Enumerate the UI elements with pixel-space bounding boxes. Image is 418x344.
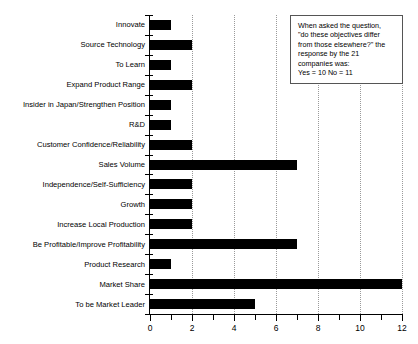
note-line: When asked the question, <box>298 21 396 30</box>
category-label: Be Profitable/Improve Profitability <box>33 240 145 249</box>
bar <box>150 100 171 110</box>
category-label: Expand Product Range <box>66 80 145 89</box>
category-label: Customer Confidence/Reliability <box>37 140 145 149</box>
category-label: R&D <box>129 120 145 129</box>
category-label: Increase Local Production <box>57 220 145 229</box>
category-label: Independence/Self-Sufficiency <box>43 180 145 189</box>
note-line: "do these objectives differ <box>298 30 396 39</box>
y-axis-tick <box>145 155 153 156</box>
x-axis-tick-label: 8 <box>305 323 331 333</box>
y-axis-tick <box>145 95 153 96</box>
y-axis-tick <box>145 234 153 235</box>
y-axis-tick <box>145 214 153 215</box>
x-axis-tick-minor <box>255 315 256 320</box>
note-line: from those elsewhere?" the <box>298 40 396 49</box>
category-label: Product Research <box>84 260 145 269</box>
x-axis-tick-label: 0 <box>137 323 163 333</box>
category-label: To be Market Leader <box>75 300 145 309</box>
y-axis-tick <box>145 35 153 36</box>
x-axis-tick-minor <box>213 315 214 320</box>
bar <box>150 140 192 150</box>
category-label: To Learn <box>115 60 145 69</box>
x-axis-tick-label: 4 <box>221 323 247 333</box>
bar <box>150 199 192 209</box>
y-axis-tick <box>145 274 153 275</box>
note-line: companies was: <box>298 59 396 68</box>
bar <box>150 259 171 269</box>
question-response-note: When asked the question, "do these objec… <box>290 15 403 84</box>
x-axis-tick-minor <box>381 315 382 320</box>
bar <box>150 179 192 189</box>
x-axis-tick-major <box>150 315 151 321</box>
category-label: Market Share <box>99 280 145 289</box>
bar-chart: InnovateSource TechnologyTo LearnExpand … <box>0 0 418 344</box>
x-axis-tick-major <box>360 315 361 321</box>
bar <box>150 299 255 309</box>
x-axis-tick-label: 10 <box>347 323 373 333</box>
note-line: Yes = 10 No = 11 <box>298 68 396 77</box>
bar <box>150 239 297 249</box>
x-axis-tick-major <box>402 315 403 321</box>
x-axis-tick-major <box>192 315 193 321</box>
x-axis-tick-label: 2 <box>179 323 205 333</box>
bar <box>150 20 171 30</box>
y-axis-tick <box>145 314 153 315</box>
x-axis-tick-minor <box>339 315 340 320</box>
x-axis-tick-major <box>234 315 235 321</box>
y-axis-tick <box>145 174 153 175</box>
bar <box>150 219 192 229</box>
bar <box>150 60 171 70</box>
bar <box>150 40 192 50</box>
x-axis-tick-minor <box>297 315 298 320</box>
y-axis-tick <box>145 75 153 76</box>
category-label: Sales Volume <box>99 160 145 169</box>
x-axis-tick-major <box>318 315 319 321</box>
x-axis-tick-label: 6 <box>263 323 289 333</box>
y-axis-tick <box>145 194 153 195</box>
bar <box>150 279 402 289</box>
y-axis-tick <box>145 254 153 255</box>
bar <box>150 160 297 170</box>
category-label: Insider in Japan/Strengthen Position <box>23 100 145 109</box>
note-line: response by the 21 <box>298 49 396 58</box>
bar <box>150 120 171 130</box>
y-axis-tick <box>145 15 153 16</box>
category-label: Source Technology <box>81 40 145 49</box>
x-axis-tick-minor <box>171 315 172 320</box>
y-axis-tick <box>145 135 153 136</box>
y-axis-tick <box>145 294 153 295</box>
y-axis-tick <box>145 115 153 116</box>
x-axis-tick-major <box>276 315 277 321</box>
x-axis-tick-label: 12 <box>389 323 415 333</box>
category-label: Growth <box>121 200 145 209</box>
y-axis-tick <box>145 55 153 56</box>
category-label: Innovate <box>116 20 145 29</box>
bar <box>150 80 192 90</box>
